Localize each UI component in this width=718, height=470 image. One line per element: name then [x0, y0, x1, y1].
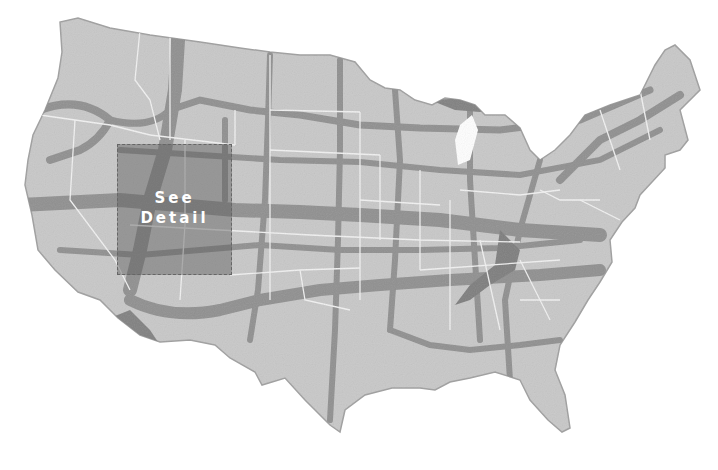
see-detail-box[interactable]: See Detail: [117, 144, 232, 275]
us-map: [0, 0, 718, 470]
see-detail-label-line2: Detail: [118, 209, 231, 227]
see-detail-label-line1: See: [118, 189, 231, 207]
